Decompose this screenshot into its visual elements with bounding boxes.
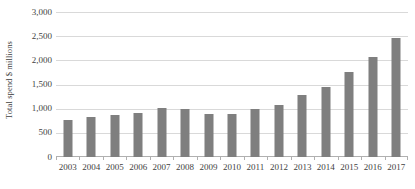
x-axis-tick-label: 2009 <box>200 162 218 173</box>
x-axis-tick-label: 2017 <box>387 162 405 173</box>
x-axis-tick-label: 2016 <box>364 162 382 173</box>
y-axis-tick-label: 0 <box>48 153 53 162</box>
x-axis-tick-label: 2012 <box>270 162 288 173</box>
x-axis-tick <box>150 157 151 160</box>
bar-slot <box>314 12 337 157</box>
x-axis-tick <box>314 157 315 160</box>
x-axis-tick <box>220 157 221 160</box>
x-axis-tick-label: 2004 <box>82 162 100 173</box>
y-axis-title: Total spend $ millions <box>0 0 18 160</box>
bar-chart: Total spend $ millions 05001,0001,5002,0… <box>0 0 415 189</box>
y-axis-tick-label: 2,000 <box>32 56 52 65</box>
bar[interactable] <box>110 115 119 157</box>
x-axis-tick-label: 2007 <box>153 162 171 173</box>
x-axis-ticks <box>56 157 408 161</box>
bar[interactable] <box>345 72 354 157</box>
bar-slot <box>197 12 220 157</box>
bar[interactable] <box>321 87 330 157</box>
bar-slot <box>126 12 149 157</box>
x-axis-tick <box>407 157 408 160</box>
bar[interactable] <box>392 38 401 157</box>
x-axis-tick-label: 2015 <box>340 162 358 173</box>
x-axis-tick <box>267 157 268 160</box>
bar-slot <box>56 12 79 157</box>
bar-slot <box>173 12 196 157</box>
bar-slot <box>220 12 243 157</box>
y-axis-tick-label: 3,000 <box>32 8 52 17</box>
bar[interactable] <box>204 114 213 157</box>
bar[interactable] <box>227 114 236 157</box>
bar-slot <box>291 12 314 157</box>
bar[interactable] <box>368 57 377 157</box>
bar[interactable] <box>251 109 260 157</box>
x-axis-tick <box>126 157 127 160</box>
bar-slot <box>103 12 126 157</box>
x-axis-tick-label: 2006 <box>129 162 147 173</box>
y-axis-tick-label: 500 <box>39 128 53 137</box>
x-axis-tick <box>103 157 104 160</box>
x-axis-tick <box>56 157 57 160</box>
bars-layer <box>56 12 408 157</box>
y-axis-tick-label: 1,000 <box>32 104 52 113</box>
bar-slot <box>361 12 384 157</box>
y-axis-title-label: Total spend $ millions <box>4 41 14 119</box>
x-axis-tick <box>79 157 80 160</box>
x-axis-tick <box>291 157 292 160</box>
x-axis-tick <box>173 157 174 160</box>
y-axis-tick-label: 1,500 <box>32 80 52 89</box>
bar-slot <box>338 12 361 157</box>
x-axis-tick-labels: 2003200420052006200720082009201020112012… <box>56 162 408 176</box>
x-axis-tick-label: 2005 <box>106 162 124 173</box>
bar[interactable] <box>157 108 166 157</box>
x-axis-tick-label: 2008 <box>176 162 194 173</box>
bar[interactable] <box>298 95 307 157</box>
x-axis-tick-label: 2013 <box>293 162 311 173</box>
x-axis-tick-label: 2014 <box>317 162 335 173</box>
y-axis-tick-labels: 05001,0001,5002,0002,5003,000 <box>18 0 54 160</box>
x-axis-tick-label: 2010 <box>223 162 241 173</box>
plot-area <box>56 12 408 157</box>
bar[interactable] <box>63 120 72 157</box>
x-axis-tick <box>385 157 386 160</box>
bar-slot <box>150 12 173 157</box>
bar-slot <box>267 12 290 157</box>
x-axis-tick <box>244 157 245 160</box>
bar[interactable] <box>181 109 190 157</box>
bar[interactable] <box>274 105 283 157</box>
y-axis-tick-label: 2,500 <box>32 32 52 41</box>
x-axis-tick-label: 2011 <box>247 162 265 173</box>
x-axis-tick <box>197 157 198 160</box>
bar-slot <box>244 12 267 157</box>
bar[interactable] <box>134 113 143 157</box>
bar-slot <box>385 12 408 157</box>
x-axis-tick-label: 2003 <box>59 162 77 173</box>
bar-slot <box>79 12 102 157</box>
x-axis-tick <box>361 157 362 160</box>
x-axis-tick <box>338 157 339 160</box>
bar[interactable] <box>87 117 96 157</box>
